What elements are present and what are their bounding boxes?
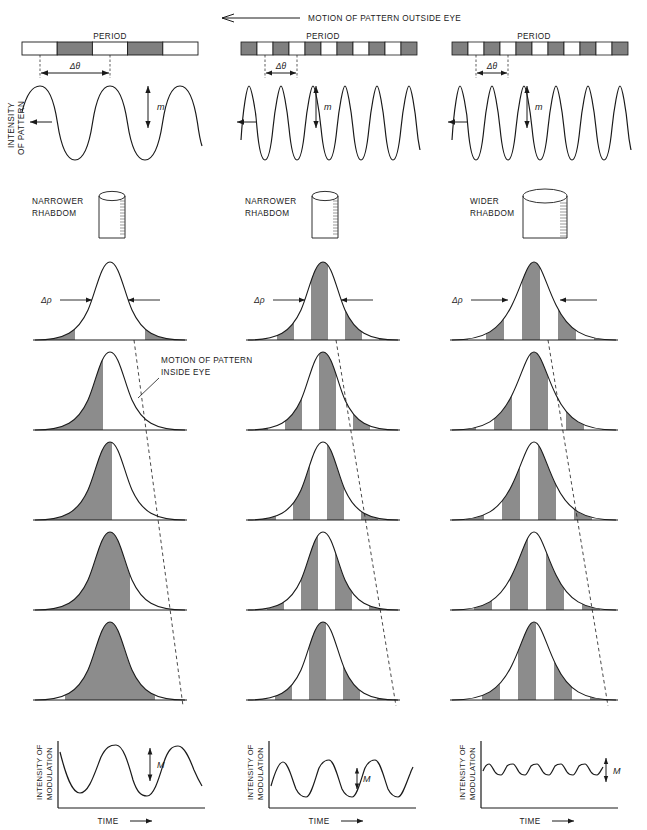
rhabdom-label-right-line1: WIDER	[470, 197, 499, 206]
x-axis-time-right: TIME	[520, 817, 541, 826]
rhabdom-cylinder-left-icon	[99, 191, 125, 238]
time-arrow-left	[130, 818, 152, 823]
acceptance-row-left-5	[33, 610, 187, 705]
acceptance-row-right-2	[450, 340, 620, 435]
modulation-graph-left: INTENSITY OF MODULATION M TIME	[35, 741, 205, 826]
rhabdom-left: NARROWER RHABDOM	[32, 191, 125, 238]
rhabdom-label-middle-line2: RHABDOM	[245, 209, 289, 218]
delta-theta-arrow-left: Δθ	[41, 61, 109, 76]
inside-motion-label-line2: INSIDE EYE	[161, 368, 211, 377]
y-axis-pattern-left-line2: OF PATTERN	[17, 101, 26, 155]
delta-theta-label-left: Δθ	[69, 61, 81, 71]
M-arrow-left: M	[148, 748, 165, 781]
wave-direction-arrow-middle	[237, 119, 257, 125]
m-arrow-left: m	[145, 86, 165, 128]
column-left-pattern: PERIOD Δθ m INTENSITY OF PATTERN	[7, 32, 202, 160]
delta-rho-label-middle: Δρ	[253, 295, 265, 305]
acceptance-row-left-4	[33, 520, 187, 615]
delta-rho-label-right: Δρ	[451, 295, 463, 305]
pattern-bar-left	[22, 42, 198, 55]
motion-dashed-line-right	[548, 340, 608, 706]
pattern-wave-middle	[241, 86, 420, 160]
period-label-left: PERIOD	[93, 32, 127, 41]
acceptance-row-middle-2	[246, 340, 404, 435]
figure-root: MOTION OF PATTERN OUTSIDE EYE PERIOD Δθ	[0, 0, 647, 830]
delta-theta-arrow-middle: Δθ	[266, 61, 296, 76]
m-label-middle: m	[324, 102, 332, 112]
acceptance-row-left-2	[20, 340, 208, 435]
time-arrow-middle	[341, 818, 363, 823]
rhabdom-label-middle-line1: NARROWER	[245, 197, 296, 206]
y-axis-mod-middle-line1: INTENSITY OF	[246, 744, 255, 800]
vision-diagram: MOTION OF PATTERN OUTSIDE EYE PERIOD Δθ	[0, 0, 647, 830]
acceptance-row-left-3	[20, 430, 187, 525]
x-axis-time-middle: TIME	[309, 817, 330, 826]
rhabdom-middle: NARROWER RHABDOM	[245, 191, 338, 238]
inside-motion-label-line1: MOTION OF PATTERN	[161, 356, 253, 365]
M-label-middle: M	[363, 774, 371, 784]
pattern-bar-right	[452, 42, 628, 55]
acceptance-row-middle-5	[246, 610, 400, 705]
inside-motion-annotation: MOTION OF PATTERN INSIDE EYE	[138, 356, 253, 398]
wave-direction-arrow-left	[30, 119, 52, 125]
M-arrow-right: M	[604, 758, 621, 782]
column-right-pattern: PERIOD Δθ m	[448, 32, 631, 160]
modulation-graph-right: INTENSITY OF MODULATION M TIME	[458, 741, 621, 826]
pattern-wave-left	[22, 86, 202, 160]
top-motion-annotation: MOTION OF PATTERN OUTSIDE EYE	[222, 14, 461, 23]
rhabdom-label-left-line1: NARROWER	[32, 197, 83, 206]
rhabdom-cylinder-middle-icon	[312, 191, 338, 238]
delta-theta-label-right: Δθ	[486, 61, 498, 71]
time-arrow-right	[552, 818, 574, 823]
m-label-left: m	[157, 102, 165, 112]
acceptance-row-right-4	[450, 520, 618, 615]
modulation-wave-right	[483, 764, 603, 775]
rhabdom-label-right-line2: RHABDOM	[470, 209, 514, 218]
m-arrow-middle: m	[313, 86, 332, 128]
y-axis-mod-left-line2: MODULATION	[45, 747, 54, 800]
top-motion-label: MOTION OF PATTERN OUTSIDE EYE	[308, 14, 461, 23]
m-label-right: m	[535, 102, 543, 112]
period-label-middle: PERIOD	[306, 32, 340, 41]
y-axis-mod-right-line1: INTENSITY OF	[458, 744, 467, 800]
rhabdom-right: WIDER RHABDOM	[470, 189, 567, 238]
delta-theta-arrow-right: Δθ	[477, 61, 507, 76]
M-label-left: M	[157, 760, 165, 770]
M-label-right: M	[613, 766, 621, 776]
wave-direction-arrow-right	[448, 119, 468, 125]
delta-rho-arrow-left: Δρ	[40, 295, 160, 305]
acceptance-row-left-1: Δρ	[20, 250, 205, 345]
y-axis-pattern-left-line1: INTENSITY	[7, 102, 16, 148]
acceptance-row-right-5	[450, 610, 618, 705]
pattern-wave-right	[452, 86, 631, 160]
acceptance-row-middle-4	[246, 520, 400, 615]
delta-theta-label-middle: Δθ	[275, 61, 287, 71]
acceptance-stack-middle: Δρ	[243, 250, 405, 706]
rhabdom-cylinder-right-icon	[523, 189, 567, 238]
delta-rho-label-left: Δρ	[40, 295, 52, 305]
acceptance-row-middle-3	[246, 430, 405, 525]
acceptance-stack-right: Δρ	[450, 250, 622, 706]
acceptance-row-middle-1: Δρ	[243, 250, 400, 345]
period-label-right: PERIOD	[517, 32, 551, 41]
M-arrow-middle: M	[355, 768, 371, 789]
acceptance-row-right-1: Δρ	[450, 250, 618, 345]
rhabdom-label-left-line2: RHABDOM	[32, 209, 76, 218]
acceptance-stack-left: Δρ	[20, 250, 208, 706]
m-arrow-right: m	[524, 86, 543, 128]
pattern-bar-middle	[241, 42, 417, 55]
column-middle-pattern: PERIOD Δθ m	[237, 32, 420, 160]
modulation-wave-middle	[271, 760, 413, 797]
x-axis-time-left: TIME	[98, 817, 119, 826]
acceptance-row-right-3	[450, 430, 622, 525]
y-axis-mod-right-line2: MODULATION	[468, 747, 477, 800]
y-axis-mod-left-line1: INTENSITY OF	[35, 744, 44, 800]
y-axis-mod-middle-line2: MODULATION	[256, 747, 265, 800]
motion-dashed-line-middle	[336, 340, 396, 706]
modulation-graph-middle: INTENSITY OF MODULATION M TIME	[246, 741, 416, 826]
modulation-wave-left	[60, 745, 202, 796]
